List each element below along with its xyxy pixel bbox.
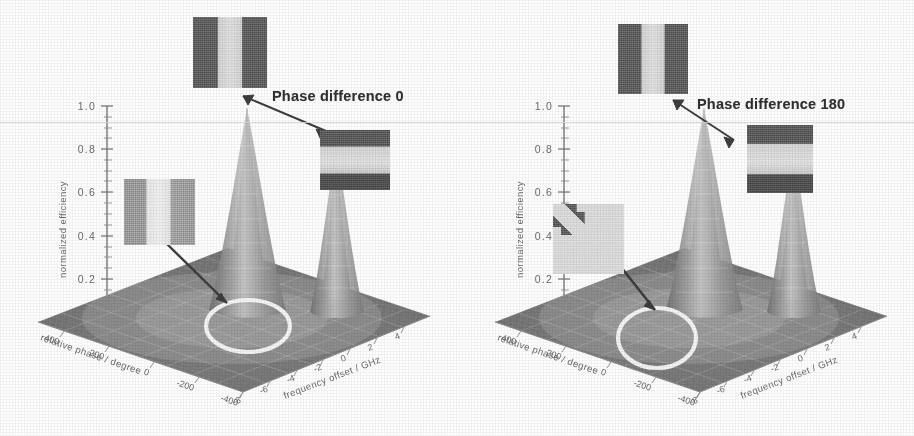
panel-phase-difference-0: 1.0 0.8 0.6 0.4 0.2 0.0 normalized effic…: [0, 0, 457, 436]
ytick-label: -200: [632, 378, 652, 393]
xtick-label: 0: [339, 353, 347, 364]
xtick-label: 4: [393, 331, 401, 342]
inset-checkerboard: [553, 204, 624, 274]
ztick-label: 0.4: [78, 230, 96, 242]
ztick-label: 0.2: [535, 273, 553, 285]
inset-vertical-stripe: [618, 24, 688, 94]
annotation-phase-difference: Phase difference 0: [272, 88, 404, 104]
panel-phase-difference-180: 1.0 0.8 0.6 0.4 0.2 0.0 normalized effic…: [457, 0, 914, 436]
inset-vertical-stripe: [193, 17, 267, 88]
inset-horizontal-stripe: [747, 125, 813, 193]
figure-canvas: 1.0 0.8 0.6 0.4 0.2 0.0 normalized effic…: [0, 0, 914, 436]
ytick-label: 0: [600, 367, 608, 378]
xtick-label: 2: [366, 342, 374, 353]
ztick-label: 0.6: [78, 186, 96, 198]
xtick-label: 0: [796, 353, 804, 364]
xtick-label: 4: [850, 331, 858, 342]
ztick-label: 0.6: [535, 186, 553, 198]
ytick-label: -200: [175, 378, 195, 393]
annotation-phase-difference: Phase difference 180: [697, 96, 845, 112]
z-axis-title: normalized efficiency: [514, 181, 525, 278]
ztick-label: 0.8: [78, 143, 96, 155]
ytick-label: 0: [143, 367, 151, 378]
ztick-label: 1.0: [535, 100, 553, 112]
ztick-label: 0.8: [535, 143, 553, 155]
xtick-label: 2: [823, 342, 831, 353]
surface-peak-1-left: [209, 108, 286, 318]
z-axis-title: normalized efficiency: [57, 181, 68, 278]
ztick-label: 1.0: [78, 100, 96, 112]
inset-horizontal-stripe: [320, 130, 390, 190]
inset-bright-block: [124, 179, 195, 245]
ztick-label: 0.4: [535, 230, 553, 242]
ztick-label: 0.2: [78, 273, 96, 285]
z-axis-left: 1.0 0.8 0.6 0.4 0.2 0.0 normalized effic…: [57, 100, 113, 328]
